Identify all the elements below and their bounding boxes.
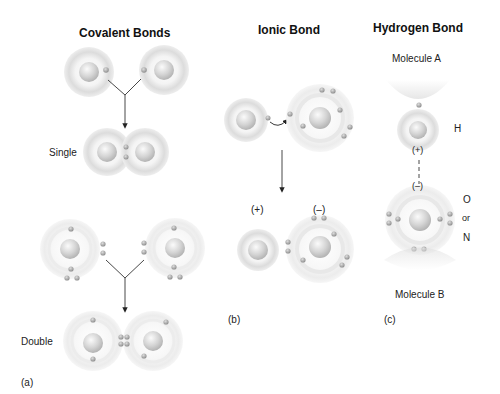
panel-letter-a: (a) [21,377,33,388]
double-bond-label: Double [21,336,53,347]
negative-charge-label: (–) [313,204,325,215]
or-label: or [462,213,470,223]
sodium-atom [224,98,271,142]
molecule-a-label: Molecule A [392,53,441,64]
covalent-single-reactants [64,45,189,97]
covalent-bonds-title: Covalent Bonds [79,26,170,40]
hydrogen-bond-title: Hydrogen Bond [373,21,463,35]
covalent-double-arrow [106,260,144,310]
n-atom-label: N [463,232,470,243]
covalent-single-molecule [83,128,169,176]
electronegative-atom [385,185,455,255]
chloride-ion [285,215,354,283]
partial-negative-label: (–) [412,181,423,191]
single-bond-label: Single [49,147,77,158]
partial-positive-label: (+) [412,145,423,155]
covalent-double-molecule [63,311,183,371]
hydrogen-atom-left [64,47,114,97]
ionic-bond-title: Ionic Bond [258,23,320,37]
hydrogen-atom-right [139,45,189,95]
covalent-single-arrow [108,79,141,126]
electron-transfer-arrow [270,121,286,125]
positive-charge-label: (+) [251,204,264,215]
ionic-reactants [224,84,354,152]
oxygen-atom-left [40,219,106,281]
molecule-b-label: Molecule B [395,289,444,300]
chlorine-atom [286,84,354,152]
panel-letter-b: (b) [228,314,240,325]
panel-letter-c: (c) [384,314,396,325]
oxygen-atom-right [141,218,205,280]
h-atom-label: H [454,123,461,134]
molecule-b-fragment [384,248,456,271]
o-atom-label: O [463,194,471,205]
covalent-double-reactants [40,218,205,281]
molecule-a-fragment [386,80,450,108]
ionic-products [237,215,354,283]
sodium-ion [237,229,279,271]
